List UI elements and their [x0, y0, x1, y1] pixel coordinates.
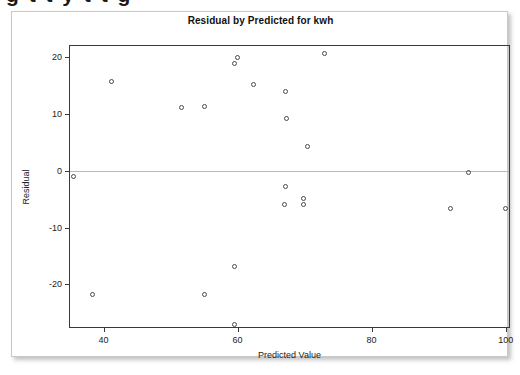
- data-point: [179, 105, 184, 110]
- y-axis-tick-label: 10: [52, 109, 62, 119]
- cut-off-heading-remnant: g t t y t t g: [0, 0, 520, 8]
- y-axis-tick: [65, 228, 70, 229]
- data-point: [232, 322, 237, 327]
- data-point: [71, 174, 76, 179]
- data-point: [235, 55, 240, 60]
- chart-panel: Residual by Predicted for kwh Residual P…: [11, 11, 508, 357]
- zero-reference-line: [70, 171, 509, 172]
- x-axis-tick-label: 40: [98, 335, 108, 345]
- data-point: [322, 51, 327, 56]
- chart-title: Residual by Predicted for kwh: [12, 15, 509, 26]
- data-point: [202, 292, 207, 297]
- data-point: [283, 89, 288, 94]
- data-point: [448, 206, 453, 211]
- x-axis-tick: [506, 327, 507, 332]
- x-axis-title: Predicted Value: [69, 350, 510, 360]
- cut-off-heading-text: g t t y t t g: [6, 0, 132, 7]
- data-point: [503, 206, 508, 211]
- data-point: [232, 264, 237, 269]
- x-axis-tick-label: 80: [367, 335, 377, 345]
- data-point: [466, 170, 471, 175]
- data-point: [109, 79, 114, 84]
- x-axis-tick: [238, 327, 239, 332]
- data-point: [90, 292, 95, 297]
- y-axis-tick: [65, 171, 70, 172]
- y-axis-tick-label: 0: [57, 166, 62, 176]
- y-axis-tick-label: -10: [49, 223, 62, 233]
- plot-area: 20100-10-20 406080100: [69, 45, 510, 328]
- y-axis-title: Residual: [21, 169, 31, 204]
- x-axis-tick: [104, 327, 105, 332]
- data-point: [301, 202, 306, 207]
- data-point: [232, 61, 237, 66]
- data-point: [283, 184, 288, 189]
- y-axis-tick: [65, 114, 70, 115]
- x-axis-tick-label: 60: [233, 335, 243, 345]
- data-point: [305, 144, 310, 149]
- data-point: [301, 196, 306, 201]
- x-axis-tick: [372, 327, 373, 332]
- data-point: [284, 116, 289, 121]
- data-point: [202, 104, 207, 109]
- data-point: [251, 82, 256, 87]
- y-axis-tick-label: -20: [49, 279, 62, 289]
- data-point: [282, 202, 287, 207]
- y-axis-tick-label: 20: [52, 52, 62, 62]
- x-axis-tick-label: 100: [498, 335, 513, 345]
- y-axis-tick: [65, 284, 70, 285]
- y-axis-tick: [65, 57, 70, 58]
